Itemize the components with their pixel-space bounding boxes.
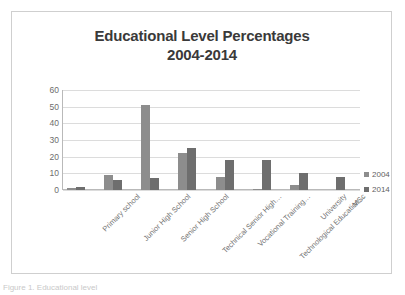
y-axis-tick-labels: 0102030405060 (37, 90, 59, 190)
y-axis-tick-label: 60 (41, 86, 59, 95)
y-axis-tick-label: 0 (41, 186, 59, 195)
bar-group (100, 90, 137, 190)
figure-caption: Figure 1. Educational level (3, 283, 183, 293)
bar[interactable] (104, 175, 113, 190)
bar[interactable] (76, 187, 85, 190)
bar[interactable] (336, 177, 345, 190)
chart-frame: Educational Level Percentages 2004-2014 … (11, 11, 392, 274)
legend-swatch-icon (364, 172, 369, 177)
bar[interactable] (150, 178, 159, 191)
x-axis-category-labels: Primary schoolJunior High SchoolSenior H… (63, 192, 360, 264)
y-axis-tick-label: 20 (41, 152, 59, 161)
y-axis-tick-label: 50 (41, 102, 59, 111)
bar[interactable] (187, 148, 196, 190)
plot-area (63, 90, 360, 190)
bar[interactable] (113, 180, 122, 190)
bar-group (137, 90, 174, 190)
bar[interactable] (299, 173, 308, 190)
figure-page: Educational Level Percentages 2004-2014 … (0, 0, 405, 295)
bar[interactable] (67, 188, 76, 190)
bar[interactable] (290, 185, 299, 190)
chart-legend: 20042014 (364, 167, 402, 197)
bar-group (249, 90, 286, 190)
bar[interactable] (141, 105, 150, 190)
bar-group (63, 90, 100, 190)
legend-item[interactable]: 2014 (364, 182, 402, 197)
bars-layer (63, 90, 360, 190)
bar-group (212, 90, 249, 190)
legend-swatch-icon (364, 187, 369, 192)
legend-label: 2004 (372, 170, 390, 179)
x-axis-category-label: Primary school (101, 192, 142, 233)
bar[interactable] (253, 189, 262, 190)
bar[interactable] (225, 160, 234, 190)
bar[interactable] (178, 153, 187, 190)
chart-title: Educational Level Percentages 2004-2014 (42, 26, 362, 64)
bar-group (286, 90, 323, 190)
chart-title-line-2: 2004-2014 (42, 45, 362, 64)
bar-group (323, 90, 360, 190)
y-axis-tick-label: 10 (41, 169, 59, 178)
x-axis-category-label: Vocational Training… (255, 192, 311, 248)
y-axis-tick-label: 40 (41, 119, 59, 128)
legend-item[interactable]: 2004 (364, 167, 402, 182)
bar[interactable] (216, 177, 225, 190)
y-axis-tick-label: 30 (41, 136, 59, 145)
legend-label: 2014 (372, 185, 390, 194)
chart-title-line-1: Educational Level Percentages (94, 27, 309, 44)
bar[interactable] (262, 160, 271, 190)
bar-group (174, 90, 211, 190)
gridline (63, 190, 360, 191)
